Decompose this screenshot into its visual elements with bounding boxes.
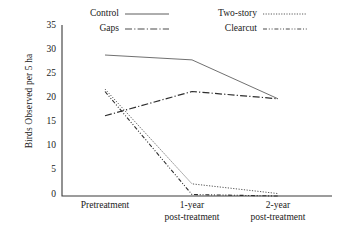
chart-root: Control Two-story Gaps Clearcut Birds Ob…	[0, 0, 340, 237]
series-line-two-story	[105, 89, 278, 194]
series-line-clearcut	[105, 91, 278, 196]
x-tick-label-2-year-post-treatment: 2-year post-treatment	[228, 200, 328, 223]
x-tick-label-pretreatment: Pretreatment	[55, 200, 155, 212]
series-line-gaps	[105, 91, 278, 115]
x-tick-label-1-year-post-treatment: 1-year post-treatment	[142, 200, 242, 223]
